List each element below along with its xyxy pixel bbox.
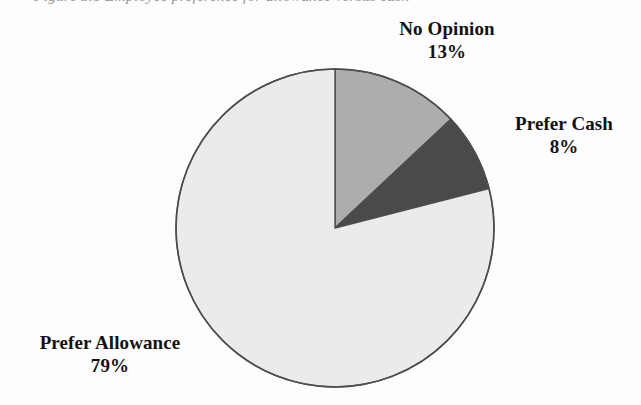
pie-chart [175,68,495,388]
clipped-figure-caption-text: Figure 3.1 Employee preference for allow… [34,0,409,5]
label-no-opinion-name: No Opinion [352,17,542,40]
label-no-opinion: No Opinion 13% [352,17,542,63]
label-prefer-allowance: Prefer Allowance 79% [4,331,216,377]
pie-slices [176,69,494,387]
label-prefer-cash-value: 8% [488,135,640,158]
label-no-opinion-value: 13% [352,40,542,63]
label-prefer-cash: Prefer Cash 8% [488,112,640,158]
figure-page: Figure 3.1 Employee preference for allow… [0,0,641,405]
clipped-figure-caption: Figure 3.1 Employee preference for allow… [0,0,641,11]
label-prefer-allowance-name: Prefer Allowance [4,331,216,354]
pie-chart-svg [175,68,495,388]
label-prefer-allowance-value: 79% [4,354,216,377]
label-prefer-cash-name: Prefer Cash [488,112,640,135]
